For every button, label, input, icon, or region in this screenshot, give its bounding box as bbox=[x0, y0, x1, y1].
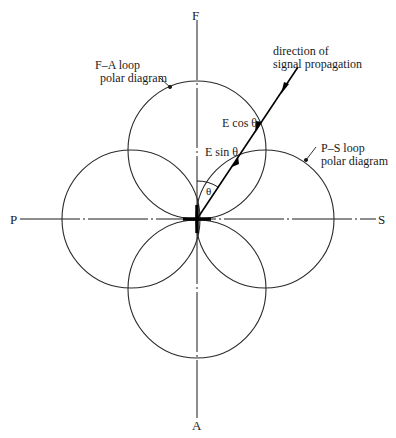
fa-loop-label: F–A loop polar diagram bbox=[95, 58, 168, 85]
arrowhead-icon bbox=[281, 82, 289, 94]
axis-label-p: P bbox=[10, 212, 17, 227]
direction-label: direction of signal propagation bbox=[273, 44, 362, 71]
e-sin-label: E sin θ bbox=[205, 145, 238, 159]
theta-label: θ bbox=[206, 185, 211, 197]
axis-label-s: S bbox=[378, 212, 385, 227]
axis-label-f: F bbox=[192, 8, 199, 23]
signal-direction-arrow bbox=[197, 67, 298, 219]
e-cos-label: E cos θ bbox=[222, 116, 257, 130]
axis-label-a: A bbox=[192, 418, 202, 433]
ps-loop-label: P–S loop polar diagram bbox=[321, 141, 389, 168]
polar-diagram: F A P S F–A loop polar diagram P–S loop … bbox=[0, 0, 396, 438]
